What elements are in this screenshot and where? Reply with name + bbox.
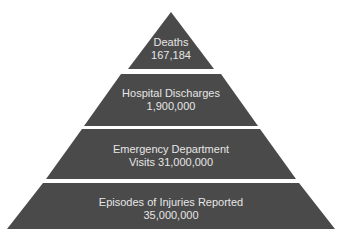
tier-deaths-label: Deaths 167,184 (0, 36, 342, 62)
tier-injuries-reported-title: Episodes of Injuries Reported (0, 196, 342, 209)
tier-deaths-value: 167,184 (0, 49, 342, 62)
tier-hospital-discharges-label: Hospital Discharges 1,900,000 (0, 87, 342, 113)
tier-emergency-department-value: Visits 31,000,000 (0, 156, 342, 169)
tier-deaths-title: Deaths (0, 36, 342, 49)
tier-injuries-reported-label: Episodes of Injuries Reported 35,000,000 (0, 196, 342, 222)
tier-injuries-reported-value: 35,000,000 (0, 209, 342, 222)
tier-hospital-discharges-value: 1,900,000 (0, 100, 342, 113)
tier-hospital-discharges-title: Hospital Discharges (0, 87, 342, 100)
tier-emergency-department-title: Emergency Department (0, 143, 342, 156)
tier-emergency-department-label: Emergency Department Visits 31,000,000 (0, 143, 342, 169)
